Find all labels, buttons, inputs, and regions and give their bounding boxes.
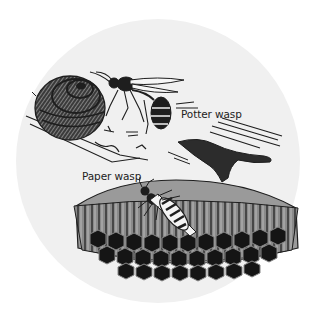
label-paper-wasp: Paper wasp	[82, 171, 141, 182]
wasp-illustration: Potter wasp Paper wasp	[0, 0, 320, 315]
label-potter-wasp: Potter wasp	[181, 109, 242, 120]
